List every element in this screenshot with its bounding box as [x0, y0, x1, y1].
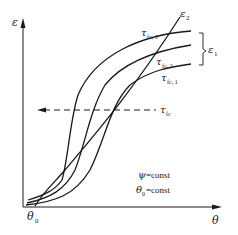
- svg-text:1: 1: [214, 50, 218, 58]
- svg-text:0: 0: [35, 217, 39, 225]
- x-axis: θ: [23, 205, 222, 228]
- y-axis-arrow-icon: [21, 18, 26, 28]
- label-epsilon-2: ε 2: [180, 8, 190, 22]
- condition-psi-const: ψ =const: [138, 169, 171, 180]
- svg-text:0: 0: [142, 191, 145, 197]
- origin-label: θ 0: [27, 210, 39, 225]
- curve-tau-fc-1: [26, 64, 191, 205]
- strain-vs-temperature-diagram: ε θ θ 0 τ fc τ fc, 3 τ fc, 2 τ fc, 1 ε 2: [0, 0, 238, 235]
- left-arrow-icon: [37, 108, 46, 113]
- label-tau-fc-3: τ fc, 3: [141, 27, 158, 40]
- svg-text:=const: =const: [146, 185, 171, 195]
- svg-text:2: 2: [186, 14, 190, 22]
- svg-text:ε: ε: [208, 44, 213, 55]
- svg-text:ε: ε: [180, 8, 185, 19]
- label-tau-fc-2: τ fc, 2: [156, 56, 173, 69]
- y-axis: ε: [12, 16, 26, 207]
- label-tau-fc-1: τ fc, 1: [161, 72, 178, 85]
- bracket-epsilon-1: ε 1: [199, 33, 218, 65]
- x-axis-label: θ: [212, 214, 219, 227]
- condition-theta0-const: θ 0 =const: [136, 184, 171, 197]
- svg-text:fc, 3: fc, 3: [147, 34, 158, 40]
- svg-text:fc: fc: [166, 111, 171, 117]
- svg-text:θ: θ: [27, 210, 34, 223]
- x-axis-arrow-icon: [212, 205, 222, 210]
- dashed-tau-fc-line: τ fc: [37, 104, 171, 117]
- svg-text:=const: =const: [146, 170, 171, 180]
- svg-text:fc, 1: fc, 1: [167, 79, 178, 85]
- brace-icon: [199, 33, 206, 65]
- y-axis-label: ε: [12, 16, 18, 29]
- svg-text:ψ: ψ: [138, 169, 146, 180]
- svg-text:fc, 2: fc, 2: [162, 63, 173, 69]
